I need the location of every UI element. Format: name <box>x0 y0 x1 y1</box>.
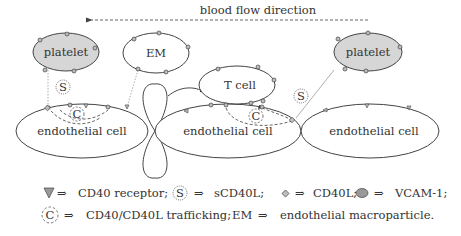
endothelial-cell-middle-label: endothelial cell <box>183 124 273 138</box>
vcam-dot <box>261 99 265 103</box>
vcam-dot <box>164 70 168 74</box>
vcam-dot <box>336 37 340 41</box>
cd40-receptor <box>125 105 129 109</box>
vcam-dot <box>72 69 76 73</box>
vcam-dot <box>43 68 47 72</box>
triangle-icon <box>44 188 54 198</box>
vcam-dot <box>260 105 264 109</box>
legend-scd40l: sCD40L; <box>214 186 264 200</box>
vcam-dot <box>93 46 97 50</box>
legend-em-symbol: EM <box>232 208 252 222</box>
ellipse-icon <box>356 189 368 198</box>
trafficking-marker-left: C <box>70 107 84 121</box>
legend-vcam1: VCAM-1; <box>394 186 447 200</box>
trafficking-marker-middle: C <box>249 109 263 123</box>
legend-em-definition: endothelial macroparticle. <box>280 208 434 222</box>
vcam-dot <box>256 65 260 69</box>
vcam-dot <box>38 38 42 42</box>
vcam-dot <box>364 69 368 73</box>
diamond-icon <box>282 190 289 197</box>
legend-c-symbol: C <box>46 208 55 222</box>
legend-row-1: ⇒ CD40 receptor; S ⇒ sCD40L; ⇒ CD40L; ⇒ … <box>44 186 447 200</box>
diagram-canvas: blood flow direction endothelial cell en… <box>0 0 461 236</box>
svg-text:S: S <box>59 80 67 94</box>
endothelial-cell-right-label: endothelial cell <box>329 124 419 138</box>
legend-s-symbol: S <box>176 186 184 200</box>
vcam-dot <box>209 103 213 107</box>
vcam-dot <box>249 101 253 105</box>
sCD40L-marker-right: S <box>294 89 308 103</box>
vcam-dot <box>216 67 220 71</box>
em-tcell-arc <box>168 88 204 96</box>
vcam-dot <box>186 45 190 49</box>
sCD40L-marker-left: S <box>56 80 70 94</box>
legend-arrow: ⇒ <box>295 186 305 200</box>
svg-text:C: C <box>252 109 261 123</box>
legend-cd40-receptor: CD40 receptor; <box>78 186 168 200</box>
svg-text:S: S <box>297 89 305 103</box>
vcam-dot <box>366 31 370 35</box>
legend-arrow: ⇒ <box>57 186 67 200</box>
legend-arrow: ⇒ <box>374 186 384 200</box>
vcam-dot <box>132 37 136 41</box>
legend-arrow: ⇒ <box>64 208 74 222</box>
blood-flow-label: blood flow direction <box>200 3 317 17</box>
legend-trafficking: CD40/CD40L trafficking; <box>86 208 231 222</box>
legend-arrow: ⇒ <box>194 186 204 200</box>
legend-arrow: ⇒ <box>258 208 268 222</box>
vcam-dot <box>157 31 161 35</box>
vcam-dot <box>398 45 402 49</box>
vcam-dot <box>224 103 228 107</box>
vcam-dot <box>272 78 276 82</box>
platelet-right-label: platelet <box>346 45 391 59</box>
t-cell-label: T cell <box>224 78 256 92</box>
vcam-dot <box>65 32 69 36</box>
vcam-dot <box>68 103 72 107</box>
platelet-left-label: platelet <box>44 45 89 59</box>
em-link <box>127 70 138 107</box>
legend-cd40l: CD40L; <box>313 186 357 200</box>
legend-row-2: C ⇒ CD40/CD40L trafficking; EM ⇒ endothe… <box>42 207 434 223</box>
em-label: EM <box>146 46 166 60</box>
vcam-dot <box>106 105 110 109</box>
vcam-dot <box>343 67 347 71</box>
endothelial-cell-left-label: endothelial cell <box>37 124 127 138</box>
